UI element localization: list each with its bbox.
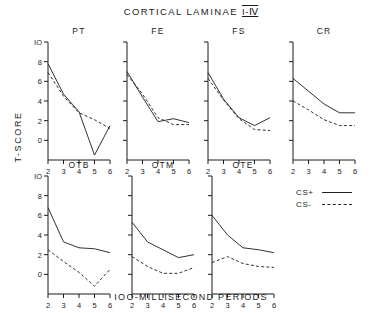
panel-title-ote: OTE <box>212 160 274 170</box>
svg-text:2: 2 <box>125 167 129 176</box>
series-cs-minus <box>132 257 194 274</box>
panel-title-pt: PT <box>48 26 110 36</box>
svg-text:4: 4 <box>161 301 165 310</box>
panel-fe: FE23456 <box>127 26 189 174</box>
plot-ote: 23456 <box>186 176 282 313</box>
series-cs-minus <box>293 101 355 126</box>
series-cs-plus <box>132 222 194 257</box>
legend-label-cs-minus: CS- <box>296 200 322 209</box>
svg-text:5: 5 <box>176 301 180 310</box>
panel-title-fe: FE <box>127 26 189 36</box>
legend-swatch-solid <box>322 192 352 193</box>
panel-title-otb: OTB <box>48 160 110 170</box>
svg-text:6: 6 <box>38 211 42 220</box>
svg-text:2: 2 <box>38 117 42 126</box>
series-cs-plus <box>48 207 110 252</box>
svg-text:3: 3 <box>61 301 65 310</box>
figure-title: CORTICAL LAMINAE I-Ⅳ <box>0 6 382 17</box>
svg-text:6: 6 <box>38 77 42 86</box>
plot-cr: 23456 <box>267 42 363 182</box>
legend-label-cs-plus: CS+ <box>296 188 322 197</box>
svg-text:IO: IO <box>34 172 42 181</box>
svg-text:5: 5 <box>92 301 96 310</box>
svg-text:IO: IO <box>34 38 42 47</box>
panel-fs: FS23456 <box>208 26 270 174</box>
svg-text:8: 8 <box>38 58 42 67</box>
svg-text:6: 6 <box>272 301 276 310</box>
figure-root: CORTICAL LAMINAE I-Ⅳ T-SCORE IOO-MILLISE… <box>0 0 382 313</box>
svg-text:2: 2 <box>38 251 42 260</box>
panel-title-fs: FS <box>208 26 270 36</box>
svg-text:4: 4 <box>77 301 81 310</box>
figure-title-roman: I-Ⅳ <box>242 6 258 17</box>
series-cs-plus <box>293 78 355 112</box>
panel-otb: OTB02468IO23456 <box>48 160 110 308</box>
svg-text:3: 3 <box>225 301 229 310</box>
svg-text:3: 3 <box>306 167 310 176</box>
svg-text:5: 5 <box>337 167 341 176</box>
figure-title-text: CORTICAL LAMINAE <box>124 6 238 17</box>
series-cs-plus <box>127 72 189 123</box>
panel-cr: CR23456 <box>293 26 355 174</box>
legend-item-cs-minus: CS- <box>296 198 352 210</box>
svg-text:2: 2 <box>46 301 50 310</box>
svg-text:0: 0 <box>38 136 42 145</box>
panel-title-otm: OTM <box>132 160 194 170</box>
svg-text:2: 2 <box>210 301 214 310</box>
svg-text:4: 4 <box>241 301 245 310</box>
legend: CS+ CS- <box>296 186 352 210</box>
svg-text:0: 0 <box>38 270 42 279</box>
svg-text:8: 8 <box>38 192 42 201</box>
svg-text:4: 4 <box>322 167 326 176</box>
svg-text:4: 4 <box>38 231 42 240</box>
series-cs-minus <box>212 257 274 268</box>
svg-text:6: 6 <box>353 167 357 176</box>
legend-swatch-dashed <box>322 204 352 205</box>
plot-otb: 02468IO23456 <box>22 176 118 313</box>
svg-text:3: 3 <box>145 301 149 310</box>
series-cs-minus <box>127 74 189 124</box>
series-cs-plus <box>212 215 274 252</box>
svg-text:2: 2 <box>130 301 134 310</box>
panel-title-cr: CR <box>293 26 355 36</box>
svg-text:5: 5 <box>256 301 260 310</box>
panel-otm: OTM23456 <box>132 160 194 308</box>
series-cs-plus <box>208 72 270 125</box>
svg-text:2: 2 <box>206 167 210 176</box>
series-cs-minus <box>48 250 110 286</box>
panel-ote: OTE23456 <box>212 160 274 308</box>
svg-text:4: 4 <box>38 97 42 106</box>
svg-text:2: 2 <box>291 167 295 176</box>
legend-item-cs-plus: CS+ <box>296 186 352 198</box>
